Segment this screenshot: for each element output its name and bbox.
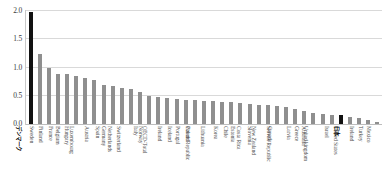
bar-slot: [136, 10, 145, 124]
bar[interactable]: [302, 111, 306, 124]
y-tick-label: 1.0: [13, 64, 22, 72]
bar-slot: [63, 10, 72, 124]
bar-slot: [181, 10, 190, 124]
bar-chart: 2.0 1.5 1.0 0.5 0.0 デンマークSwedenFinlandFr…: [0, 0, 384, 192]
bar[interactable]: [156, 97, 160, 124]
bar-slot: [209, 10, 218, 124]
bar-slot: [126, 10, 135, 124]
x-label-slot: Poland: [190, 126, 199, 192]
bar-slot: [163, 10, 172, 124]
bar[interactable]: [257, 105, 261, 124]
bar-slot: [90, 10, 99, 124]
bar[interactable]: [74, 76, 78, 124]
bars-container: [26, 10, 382, 124]
bar-slot: [355, 10, 364, 124]
x-tick-label: Turkey: [358, 126, 364, 141]
bar[interactable]: [102, 85, 106, 124]
bar-slot: [117, 10, 126, 124]
bar-slot: [44, 10, 53, 124]
bar[interactable]: [38, 54, 42, 124]
bar-slot: [108, 10, 117, 124]
bar[interactable]: [275, 106, 279, 124]
bar[interactable]: [366, 120, 370, 124]
bar[interactable]: [175, 99, 179, 124]
x-tick-label: デンマーク: [15, 126, 21, 151]
bar[interactable]: [29, 12, 33, 124]
x-tick-label: Estonia: [229, 126, 235, 142]
bar[interactable]: [65, 74, 69, 124]
bar-slot: [26, 10, 35, 124]
y-tick-label: 2.0: [13, 7, 22, 15]
bar[interactable]: [266, 105, 270, 124]
x-tick-label: Mexico: [366, 126, 372, 143]
bar[interactable]: [311, 113, 315, 124]
bar[interactable]: [229, 102, 233, 124]
bar[interactable]: [120, 88, 124, 124]
bar[interactable]: [238, 103, 242, 124]
x-tick-label: Costa Rica: [235, 126, 241, 149]
bar[interactable]: [357, 118, 361, 124]
bar-slot: [172, 10, 181, 124]
x-label-slot: Australia: [309, 126, 318, 192]
x-axis-labels: デンマークSwedenFinlandFranceBelgiumHungaryLu…: [26, 126, 382, 192]
x-tick-label: Luxembourg: [68, 126, 74, 154]
bar[interactable]: [220, 102, 224, 124]
bar-slot: [300, 10, 309, 124]
bar-slot: [254, 10, 263, 124]
bar[interactable]: [293, 109, 297, 124]
x-tick-label: United kingdom: [302, 126, 308, 161]
x-tick-label: New Zealand: [250, 126, 256, 155]
bar[interactable]: [330, 115, 334, 124]
bar[interactable]: [184, 100, 188, 125]
bar[interactable]: [56, 74, 60, 124]
x-label-slot: Canada: [272, 126, 281, 192]
bar[interactable]: [211, 101, 215, 124]
x-tick-label: Ireland: [348, 126, 354, 141]
y-axis-labels: 2.0 1.5 1.0 0.5 0.0: [0, 0, 24, 192]
bar[interactable]: [83, 78, 87, 124]
bar[interactable]: [111, 86, 115, 124]
x-tick-label: Czech Republic: [184, 126, 190, 160]
x-tick-label: Iceland: [166, 126, 172, 142]
bar-slot: [236, 10, 245, 124]
bar[interactable]: [147, 96, 151, 124]
bar[interactable]: [284, 107, 288, 124]
bar[interactable]: [321, 114, 325, 124]
x-tick-label: Austria: [84, 126, 90, 142]
bar-slot: [373, 10, 382, 124]
x-tick-label: OECD-Total: [142, 126, 148, 154]
bar[interactable]: [248, 104, 252, 124]
bar-slot: [154, 10, 163, 124]
bar-slot: [99, 10, 108, 124]
bar-slot: [345, 10, 354, 124]
bar[interactable]: [129, 89, 133, 124]
bar-slot: [364, 10, 373, 124]
bar[interactable]: [165, 98, 169, 124]
bar-slot: [263, 10, 272, 124]
bar-slot: [35, 10, 44, 124]
bar-slot: [199, 10, 208, 124]
y-tick-label: 1.5: [13, 35, 22, 43]
x-tick-label: Lithuania: [200, 126, 206, 147]
bar-slot: [72, 10, 81, 124]
bar-slot: [282, 10, 291, 124]
x-tick-label: Netherlands: [106, 126, 112, 152]
bar[interactable]: [138, 92, 142, 124]
bar[interactable]: [47, 68, 51, 124]
bar-slot: [227, 10, 236, 124]
bar-slot: [291, 10, 300, 124]
x-tick-label: Latvia: [285, 126, 291, 140]
bar-slot: [190, 10, 199, 124]
gridline-0-0: [26, 124, 382, 125]
bar[interactable]: [193, 100, 197, 124]
x-tick-label: Sweden: [28, 126, 34, 143]
bar[interactable]: [375, 122, 379, 124]
bar[interactable]: [339, 115, 343, 124]
bar[interactable]: [348, 117, 352, 124]
bar[interactable]: [92, 80, 96, 124]
bar-slot: [336, 10, 345, 124]
x-label-slot: Mexico: [373, 126, 382, 192]
x-tick-label: France: [48, 126, 54, 141]
bar[interactable]: [202, 101, 206, 124]
bar-slot: [218, 10, 227, 124]
